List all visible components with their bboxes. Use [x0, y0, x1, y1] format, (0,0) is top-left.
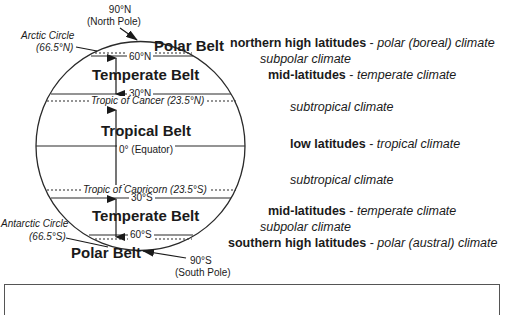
- climate-mid-latitudes-north: mid-latitudes - temperate climate: [268, 69, 456, 82]
- polar-belt-north-label: Polar Belt: [154, 38, 224, 53]
- north-pole-sublabel: (North Pole): [87, 17, 141, 27]
- arctic-circle-label: Arctic Circle: [21, 31, 74, 41]
- climate-subtropical-south: subtropical climate: [290, 174, 394, 187]
- climate-subtropical-north: subtropical climate: [290, 101, 394, 114]
- pointer-south-pole: [143, 251, 186, 258]
- lat-60s-label: 60°S: [128, 230, 154, 240]
- figure-caption-box: [4, 284, 500, 315]
- climate-subpolar-north: subpolar climate: [260, 53, 351, 66]
- temperate-belt-north-label: Temperate Belt: [92, 67, 199, 82]
- north-pole-label: 90°N: [103, 5, 137, 15]
- south-pole-label: 90°S: [190, 256, 212, 266]
- climate-southern-high-latitudes: southern high latitudes - polar (austral…: [228, 237, 498, 250]
- equator-label: 0° (Equator): [117, 145, 175, 155]
- climate-subpolar-south: subpolar climate: [260, 221, 351, 234]
- pointer-north-pole: [120, 28, 137, 40]
- polar-belt-south-label: Polar Belt: [71, 245, 141, 260]
- climate-northern-high-latitudes: northern high latitudes - polar (boreal)…: [230, 37, 495, 50]
- temperate-belt-south-label: Temperate Belt: [92, 208, 199, 223]
- tropical-belt-label: Tropical Belt: [101, 123, 191, 138]
- climate-mid-latitudes-south: mid-latitudes - temperate climate: [268, 205, 456, 218]
- tropic-cancer-label: Tropic of Cancer (23.5°N): [89, 96, 206, 106]
- arctic-circle-sublabel: (66.5°N): [36, 43, 73, 53]
- antarctic-circle-sublabel: (66.5°S): [29, 232, 66, 242]
- climate-low-latitudes: low latitudes - tropical climate: [290, 138, 460, 151]
- pointer-arctic-circle: [76, 47, 97, 51]
- lat-30s-label: 30°S: [129, 193, 155, 203]
- lat-60n-label: 60°N: [127, 52, 153, 62]
- antarctic-circle-label: Antarctic Circle: [1, 219, 68, 229]
- south-pole-sublabel: (South Pole): [175, 268, 231, 278]
